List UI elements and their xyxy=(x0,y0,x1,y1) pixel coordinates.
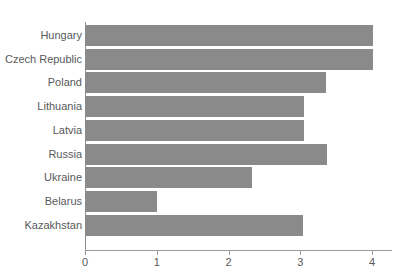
x-tick-label-3: 3 xyxy=(285,256,315,268)
category-label-hungary: Hungary xyxy=(40,25,82,46)
bar-rect xyxy=(85,96,304,117)
x-tick-mark-0 xyxy=(85,251,86,255)
category-label-ukraine: Ukraine xyxy=(44,167,82,188)
category-label-czech-republic: Czech Republic xyxy=(5,49,82,70)
category-label-belarus: Belarus xyxy=(45,191,82,212)
bar-rect xyxy=(85,191,157,212)
bar-poland xyxy=(85,72,326,93)
category-label-poland: Poland xyxy=(48,72,82,93)
category-label-lithuania: Lithuania xyxy=(37,96,82,117)
category-label-russia: Russia xyxy=(48,144,82,165)
bar-czech-republic xyxy=(85,49,373,70)
bar-hungary xyxy=(85,25,373,46)
bar-rect xyxy=(85,72,326,93)
x-tick-mark-4 xyxy=(372,251,373,255)
x-tick-label-2: 2 xyxy=(214,256,244,268)
x-tick-mark-2 xyxy=(229,251,230,255)
bar-rect xyxy=(85,120,304,141)
bar-latvia xyxy=(85,120,304,141)
category-label-kazakhstan: Kazakhstan xyxy=(25,215,82,236)
bar-belarus xyxy=(85,191,157,212)
x-axis-line xyxy=(85,250,392,251)
bar-rect xyxy=(85,49,373,70)
bar-lithuania xyxy=(85,96,304,117)
category-label-latvia: Latvia xyxy=(53,120,82,141)
x-tick-label-1: 1 xyxy=(142,256,172,268)
bar-rect xyxy=(85,215,303,236)
bar-chart-figure: HungaryCzech RepublicPolandLithuaniaLatv… xyxy=(0,0,394,275)
bar-ukraine xyxy=(85,167,252,188)
bar-rect xyxy=(85,144,327,165)
bar-rect xyxy=(85,25,373,46)
x-tick-label-0: 0 xyxy=(70,256,100,268)
plot-area xyxy=(85,22,394,250)
x-tick-mark-3 xyxy=(300,251,301,255)
bar-rect xyxy=(85,167,252,188)
bar-kazakhstan xyxy=(85,215,303,236)
x-tick-label-4: 4 xyxy=(357,256,387,268)
x-tick-mark-1 xyxy=(157,251,158,255)
bar-russia xyxy=(85,144,327,165)
